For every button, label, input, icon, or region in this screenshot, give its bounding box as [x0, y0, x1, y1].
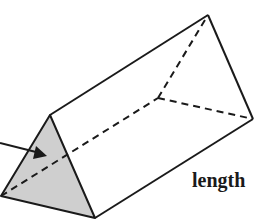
hidden-back-bottom-edge	[158, 98, 253, 119]
top-edge	[50, 15, 208, 115]
hidden-back-left-edge	[158, 15, 208, 98]
back-right-edge	[208, 15, 253, 119]
front-triangle-face	[1, 115, 95, 218]
length-label: length	[192, 170, 245, 190]
